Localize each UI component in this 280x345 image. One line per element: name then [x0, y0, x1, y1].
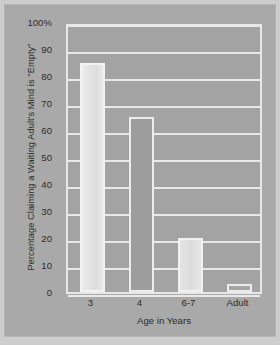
y-tick-label: 30: [12, 207, 52, 217]
y-tick-label: 90: [12, 45, 52, 55]
gridline: [68, 52, 260, 54]
y-tick-label: 40: [12, 180, 52, 190]
bar: [178, 238, 203, 292]
x-axis-label: Age in Years: [66, 315, 262, 326]
bar-face: [178, 238, 203, 292]
y-tick-label: 50: [12, 153, 52, 163]
gridline: [68, 25, 260, 27]
y-tick-label: 100%: [12, 18, 52, 28]
x-tick-label: 6-7: [164, 297, 213, 308]
y-tick-label: 20: [12, 234, 52, 244]
chart-canvas: Percentage Claiming a Waiting Adult's Mi…: [4, 4, 276, 337]
x-tick-label: 4: [115, 297, 164, 308]
x-tick-label: 3: [66, 297, 115, 308]
bar: [80, 63, 105, 293]
plot-area: [66, 24, 262, 294]
bar: [129, 117, 154, 293]
x-tick-label: Adult: [213, 297, 262, 308]
bar-face: [129, 117, 154, 293]
figure: Percentage Claiming a Waiting Adult's Mi…: [0, 0, 280, 345]
y-tick-label: 60: [12, 126, 52, 136]
bar: [227, 284, 252, 292]
y-tick-label: 80: [12, 72, 52, 82]
bar-face: [227, 284, 252, 292]
y-tick-label: 0: [12, 288, 52, 298]
y-tick-label: 10: [12, 261, 52, 271]
bar-face: [80, 63, 105, 293]
y-tick-label: 70: [12, 99, 52, 109]
